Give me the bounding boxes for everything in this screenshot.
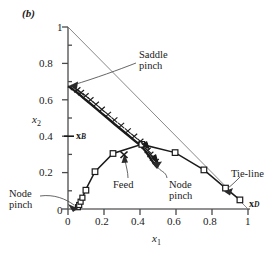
annotation-saddle-pinch-line2: pinch xyxy=(139,60,162,72)
annotation-node-pinch-mid-line2: pinch xyxy=(169,190,192,202)
y-tick-label-0.4: 0.4 xyxy=(39,131,53,142)
figure-panel-b: (b) xyxy=(0,0,278,254)
x-tick-label-0.4: 0.4 xyxy=(131,216,145,227)
x-axis-title: x1 xyxy=(152,232,161,247)
y-tick-label-0.6: 0.6 xyxy=(39,95,53,106)
y-axis-title: x2 xyxy=(32,113,41,128)
x-tick-label-1: 1 xyxy=(245,216,251,227)
x-tick-label-0.2: 0.2 xyxy=(95,216,109,227)
leader-node-pinch-mid xyxy=(157,166,167,178)
label-x-b: xB xyxy=(76,130,86,141)
label-x-d: xD xyxy=(249,198,259,209)
y-axis-title-sub: 2 xyxy=(37,119,41,128)
annotation-tie-line: Tie-line xyxy=(231,168,264,180)
y-tick-label-0: 0 xyxy=(57,205,63,216)
leader-saddle-pinch xyxy=(73,63,136,85)
y-tick-label-1: 1 xyxy=(57,22,63,33)
annotation-node-pinch-left-line2: pinch xyxy=(9,199,32,211)
markers-rectifying-squares xyxy=(75,142,242,210)
annotation-node-pinch-left-line1: Node xyxy=(9,188,32,200)
annotation-feed: Feed xyxy=(113,179,133,191)
y-tick-label-0.8: 0.8 xyxy=(39,58,53,69)
x-tick-label-0.6: 0.6 xyxy=(167,216,181,227)
y-tick-label-0.2: 0.2 xyxy=(39,167,53,178)
leader-feed xyxy=(125,160,128,178)
annotation-node-pinch-mid-line1: Node xyxy=(169,179,192,191)
annotation-saddle-pinch-line1: Saddle xyxy=(139,49,168,61)
x-tick-label-0.8: 0.8 xyxy=(203,216,217,227)
x-axis-title-sub: 1 xyxy=(157,238,161,247)
x-tick-label-0: 0 xyxy=(65,216,71,227)
y-axis-ticks xyxy=(62,27,72,209)
